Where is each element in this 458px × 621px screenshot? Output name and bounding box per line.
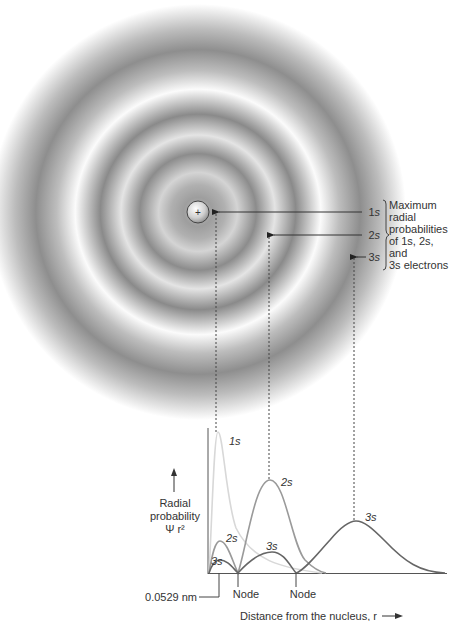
curve-label-3s-inner: 3s [211, 555, 223, 567]
caption-line-4: of 1s, 2s, [389, 235, 434, 247]
bohr-radius-label: 0.0529 nm [145, 591, 197, 603]
caption-line-6: 3s electrons [389, 259, 449, 271]
caption-line-2: radial [389, 211, 416, 223]
brace-caption: Maximum radial probabilities of 1s, 2s, … [389, 199, 449, 271]
y-axis-label-1: Radial [159, 497, 190, 509]
curve-label-3s-middle: 3s [266, 540, 278, 552]
node-1-label: Node [233, 588, 259, 600]
label-3s: 3s [368, 251, 380, 263]
caption-line-1: Maximum [389, 199, 437, 211]
y-axis-arrow-head-icon [171, 468, 177, 476]
curve-label-1s: 1s [229, 435, 241, 447]
atomic-orbital-figure: + 1s 2s 3s Maximum radial probabilities … [0, 0, 458, 621]
x-axis-label: Distance from the nucleus, r [240, 610, 377, 621]
curve-label-2s-small: 2s [225, 532, 238, 544]
x-axis-arrow-head-icon [395, 613, 403, 619]
label-1s: 1s [368, 206, 380, 218]
curve-label-3s-outer: 3s [365, 511, 377, 523]
curve-label-2s-big: 2s [280, 476, 293, 488]
radial-probability-chart: 1s 2s 2s 3s 3s 3s 0.0529 nm Node Node Ra… [145, 428, 447, 621]
y-axis-label-2: probability [150, 510, 201, 522]
caption-line-3: probabilities [389, 223, 448, 235]
label-2s: 2s [368, 229, 380, 241]
node-2-label: Node [290, 588, 316, 600]
y-axis-label-3: Ψ r² [165, 523, 185, 535]
nucleus: + [187, 201, 209, 223]
caption-line-5: and [389, 247, 407, 259]
nucleus-plus-sign: + [195, 207, 201, 218]
bohr-radius-leader [199, 573, 219, 597]
